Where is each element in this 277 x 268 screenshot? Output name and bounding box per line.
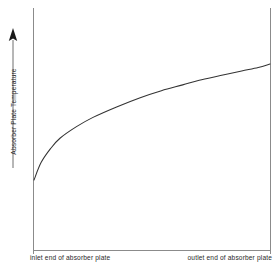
- figure-canvas: Absorber Plate Temperature inlet end of …: [0, 0, 277, 268]
- x-axis-label-outlet: outlet end of absorber plate: [188, 254, 272, 261]
- curve-path: [34, 64, 270, 180]
- x-axis-label-inlet: inlet end of absorber plate: [30, 254, 110, 261]
- temperature-curve: [0, 0, 277, 268]
